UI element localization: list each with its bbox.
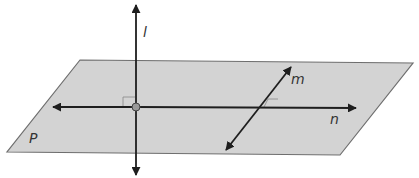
label-n: n — [330, 111, 339, 127]
label-l: l — [143, 24, 147, 40]
line-n — [136, 107, 356, 108]
label-plane-p: P — [29, 130, 37, 146]
intersection-point — [132, 103, 140, 111]
diagram-canvas — [0, 0, 419, 178]
diagram-perpendicular-lines-plane: l m n P — [0, 0, 419, 178]
label-m: m — [291, 71, 305, 87]
